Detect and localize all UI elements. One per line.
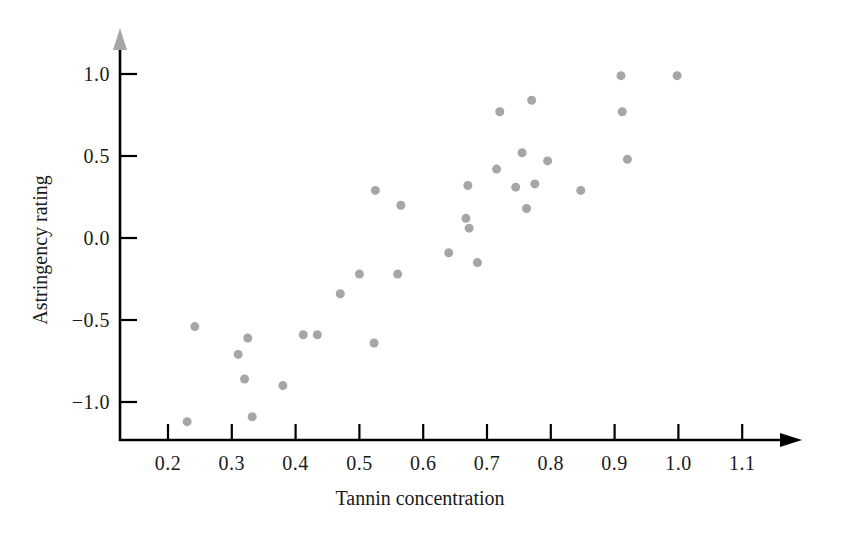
data-point: [183, 417, 192, 426]
scatter-plot-figure: 0.20.30.40.50.60.70.80.91.01.1 1.00.50.0…: [0, 0, 841, 533]
data-point: [616, 71, 625, 80]
data-point: [518, 148, 527, 157]
data-point: [473, 258, 482, 267]
x-axis-tick-label: 1.1: [729, 452, 756, 475]
x-axis-tick-label: 0.4: [282, 452, 309, 475]
x-axis-tick-label: 0.9: [601, 452, 628, 475]
data-point: [396, 201, 405, 210]
data-point: [370, 338, 379, 347]
data-point: [371, 186, 380, 195]
data-point: [355, 270, 364, 279]
x-axis-arrowhead: [780, 433, 802, 447]
x-axis-title: Tannin concentration: [335, 487, 504, 510]
y-axis-arrowhead: [113, 28, 127, 50]
data-point: [492, 165, 501, 174]
data-point: [336, 289, 345, 298]
data-point: [465, 224, 474, 233]
data-point: [618, 107, 627, 116]
data-point: [495, 107, 504, 116]
data-point: [530, 179, 539, 188]
x-axis-tick-label: 0.8: [538, 452, 565, 475]
y-axis-title: Astringency rating: [29, 175, 52, 324]
y-axis-tick-label: 0.0: [0, 227, 110, 250]
data-point: [461, 214, 470, 223]
x-axis-ticks: [168, 424, 742, 440]
data-point: [444, 248, 453, 257]
data-point: [673, 71, 682, 80]
x-axis-tick-label: 1.0: [665, 452, 692, 475]
y-axis-ticks: [120, 74, 137, 402]
x-axis-tick-label: 0.5: [346, 452, 373, 475]
data-point: [278, 381, 287, 390]
y-axis-tick-label: −1.0: [0, 391, 110, 414]
data-point: [313, 330, 322, 339]
y-axis-tick-label: −0.5: [0, 309, 110, 332]
data-point: [190, 322, 199, 331]
data-point: [576, 186, 585, 195]
data-point: [240, 375, 249, 384]
y-axis-tick-label: 0.5: [0, 145, 110, 168]
x-axis-tick-label: 0.7: [474, 452, 501, 475]
x-axis-tick-label: 0.2: [155, 452, 182, 475]
data-point-group: [183, 71, 682, 426]
axes-group: [113, 28, 802, 447]
data-point: [393, 270, 402, 279]
x-axis-tick-label: 0.3: [219, 452, 246, 475]
data-point: [623, 155, 632, 164]
x-axis-tick-label: 0.6: [410, 452, 437, 475]
data-point: [527, 96, 536, 105]
data-point: [463, 181, 472, 190]
y-axis-tick-label: 1.0: [0, 63, 110, 86]
data-point: [248, 412, 257, 421]
data-point: [543, 156, 552, 165]
data-point: [511, 183, 520, 192]
data-point: [243, 334, 252, 343]
data-point: [299, 330, 308, 339]
data-point: [234, 350, 243, 359]
data-point: [522, 204, 531, 213]
